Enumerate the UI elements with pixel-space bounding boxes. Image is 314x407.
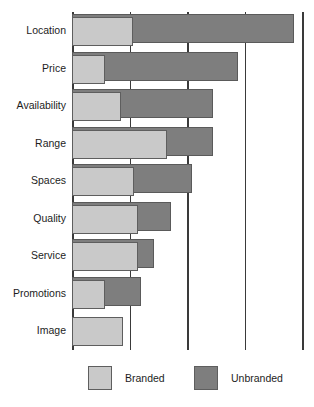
legend-item-unbranded: Unbranded — [194, 366, 283, 390]
bar-branded — [72, 242, 138, 271]
category-label-range: Range — [0, 125, 66, 163]
bar-group — [72, 275, 302, 313]
plot-area — [72, 12, 302, 350]
bar-group — [72, 12, 302, 50]
bar-branded — [72, 205, 138, 234]
unbranded-swatch — [194, 366, 218, 390]
bar-group — [72, 237, 302, 275]
category-label-location: Location — [0, 12, 66, 50]
gridline-4 — [302, 12, 304, 350]
bar-branded — [72, 130, 167, 159]
bar-group — [72, 312, 302, 350]
horizontal-bar-chart: LocationPriceAvailabilityRangeSpacesQual… — [0, 0, 314, 407]
category-label-availability: Availability — [0, 87, 66, 125]
bar-branded — [72, 280, 105, 309]
bar-branded — [72, 17, 133, 46]
legend-label-branded: Branded — [125, 372, 165, 384]
bar-group — [72, 87, 302, 125]
bar-branded — [72, 167, 134, 196]
bar-group — [72, 125, 302, 163]
branded-swatch — [88, 366, 112, 390]
bar-branded — [72, 92, 121, 121]
legend-item-branded: Branded — [88, 366, 165, 390]
category-label-promotions: Promotions — [0, 275, 66, 313]
bar-group — [72, 162, 302, 200]
category-label-image: Image — [0, 312, 66, 350]
bar-branded — [72, 55, 105, 84]
category-label-quality: Quality — [0, 200, 66, 238]
category-label-price: Price — [0, 50, 66, 88]
bar-group — [72, 50, 302, 88]
chart-legend: Branded Unbranded — [0, 362, 314, 396]
category-label-spaces: Spaces — [0, 162, 66, 200]
legend-label-unbranded: Unbranded — [231, 372, 283, 384]
category-label-service: Service — [0, 237, 66, 275]
bar-group — [72, 200, 302, 238]
bar-branded — [72, 317, 123, 346]
